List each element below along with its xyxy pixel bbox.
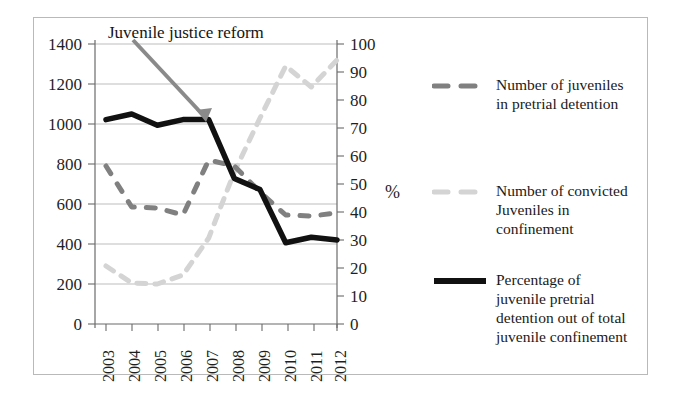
legend-label-line-1: Number of convicted	[496, 182, 628, 199]
legend-label-convicted-juveniles-in-confinement: Number of convicted Juveniles in confine…	[496, 182, 628, 239]
y-left-tick-label-200: 200	[30, 276, 82, 293]
x-tick-label-2008: 2008	[230, 350, 248, 382]
x-tick-label-2005: 2005	[152, 350, 170, 382]
percent-unit-label: %	[385, 182, 400, 203]
y-right-tick-label-80: 80	[350, 92, 384, 109]
y-left-tick-label-1200: 1200	[30, 76, 82, 93]
legend-item-juveniles-in-pretrial-detention[interactable]: Number of juveniles in pretrial detentio…	[432, 76, 637, 114]
x-tick-label-2004: 2004	[126, 350, 144, 382]
x-tick-label-2012: 2012	[332, 350, 350, 382]
y-left-ticks	[88, 44, 95, 324]
solid-black-line-swatch	[432, 274, 488, 288]
y-right-tick-label-70: 70	[350, 120, 384, 137]
legend-label-line-1: Number of juveniles	[496, 76, 623, 93]
juvenile-justice-reform-annotation-text: Juvenile justice reform	[108, 22, 268, 43]
y-right-ticks	[337, 44, 344, 324]
y-right-tick-label-30: 30	[350, 232, 384, 249]
juvenile-justice-reform-arrow	[133, 40, 212, 122]
legend-label-line-2: Juveniles in	[496, 201, 570, 218]
x-tick-label-2003: 2003	[100, 350, 118, 382]
y-left-tick-label-600: 600	[30, 196, 82, 213]
legend-item-convicted-juveniles-in-confinement[interactable]: Number of convicted Juveniles in confine…	[432, 182, 637, 239]
axis-spines	[95, 40, 337, 328]
y-right-tick-label-50: 50	[350, 176, 384, 193]
x-ticks	[106, 324, 337, 331]
y-left-tick-label-1400: 1400	[30, 36, 82, 53]
y-right-tick-label-0: 0	[350, 316, 384, 333]
y-right-tick-label-20: 20	[350, 260, 384, 277]
dashed-light-gray-line-swatch	[432, 185, 488, 199]
legend-label-line-3: detention out of total	[496, 309, 626, 326]
x-tick-label-2007: 2007	[204, 350, 222, 382]
legend-label-line-2: juvenile pretrial	[496, 290, 595, 307]
series-line-convicted-juveniles-in-confinement	[106, 60, 337, 284]
y-right-tick-label-100: 100	[350, 36, 384, 53]
legend-item-percentage-pretrial-of-total[interactable]: Percentage of juvenile pretrial detentio…	[432, 271, 637, 347]
legend-label-line-4: juvenile confinement	[496, 328, 627, 345]
legend-label-juveniles-in-pretrial-detention: Number of juveniles in pretrial detentio…	[496, 76, 623, 114]
legend-label-line-3: confinement	[496, 220, 573, 237]
y-left-tick-label-400: 400	[30, 236, 82, 253]
y-right-tick-label-60: 60	[350, 148, 384, 165]
x-tick-label-2011: 2011	[308, 351, 326, 382]
x-tick-label-2010: 2010	[282, 350, 300, 382]
y-right-tick-label-90: 90	[350, 64, 384, 81]
y-right-tick-label-10: 10	[350, 288, 384, 305]
series-line-percentage-pretrial-of-total	[106, 114, 337, 243]
legend-label-percentage-pretrial-of-total: Percentage of juvenile pretrial detentio…	[496, 271, 627, 347]
x-tick-label-2006: 2006	[178, 350, 196, 382]
y-left-tick-label-0: 0	[30, 316, 82, 333]
dashed-dark-gray-line-swatch	[432, 79, 488, 93]
y-left-tick-label-800: 800	[30, 156, 82, 173]
legend-label-line-2: in pretrial detention	[496, 95, 618, 112]
y-right-tick-label-40: 40	[350, 204, 384, 221]
x-tick-label-2009: 2009	[256, 350, 274, 382]
legend-label-line-1: Percentage of	[496, 271, 581, 288]
y-left-tick-label-1000: 1000	[30, 116, 82, 133]
